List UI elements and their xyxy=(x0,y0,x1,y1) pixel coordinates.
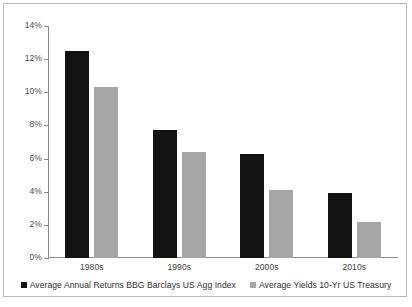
bar-1990s-series1[interactable] xyxy=(182,152,206,258)
y-axis-tick-label-wrap: 2% xyxy=(4,220,42,229)
legend-label: Average Annual Returns BBG Barclays US A… xyxy=(30,280,236,290)
y-axis-tick-label-wrap: 0% xyxy=(4,253,42,262)
chart-frame: 0%2%4%6%8%10%12%14% 1980s1990s2000s2010s… xyxy=(3,3,407,297)
y-axis-tick-label: 8% xyxy=(6,120,42,129)
y-axis-tick-label: 10% xyxy=(6,87,42,96)
bar-1980s-series1[interactable] xyxy=(94,87,118,258)
bar-group xyxy=(328,26,381,258)
plot-area xyxy=(48,26,398,258)
bar-group xyxy=(65,26,118,258)
y-axis-tick-label-wrap: 12% xyxy=(4,54,42,63)
legend-item-series1[interactable]: Average Yields 10-Yr US Treasury xyxy=(250,280,391,290)
bar-2000s-series1[interactable] xyxy=(269,190,293,258)
x-axis-label-1980s: 1980s xyxy=(48,262,136,272)
legend-item-series0[interactable]: Average Annual Returns BBG Barclays US A… xyxy=(21,280,236,290)
x-axis-label-1990s: 1990s xyxy=(136,262,224,272)
y-axis-tick-label: 6% xyxy=(6,154,42,163)
y-axis-tick-label-wrap: 14% xyxy=(4,21,42,30)
chart-legend: Average Annual Returns BBG Barclays US A… xyxy=(4,280,408,290)
bar-2000s-series0[interactable] xyxy=(240,154,264,258)
bar-2010s-series0[interactable] xyxy=(328,193,352,258)
y-axis-tick-label: 4% xyxy=(6,187,42,196)
y-axis-tick-label: 2% xyxy=(6,220,42,229)
bar-2010s-series1[interactable] xyxy=(357,222,381,258)
legend-swatch-icon xyxy=(250,282,256,288)
bar-1980s-series0[interactable] xyxy=(65,51,89,258)
y-axis-tick-label: 14% xyxy=(6,21,42,30)
bar-1990s-series0[interactable] xyxy=(153,130,177,258)
y-axis-tick-label-wrap: 10% xyxy=(4,87,42,96)
y-axis-tick-label: 12% xyxy=(6,54,42,63)
x-axis-label-2000s: 2000s xyxy=(223,262,311,272)
bar-group xyxy=(240,26,293,258)
y-axis-tick-label-wrap: 6% xyxy=(4,154,42,163)
legend-label: Average Yields 10-Yr US Treasury xyxy=(259,280,391,290)
x-axis-label-2010s: 2010s xyxy=(311,262,399,272)
bar-group xyxy=(153,26,206,258)
y-axis-tick-label: 0% xyxy=(6,253,42,262)
y-axis-tick xyxy=(44,258,49,259)
y-axis-tick-label-wrap: 4% xyxy=(4,187,42,196)
y-axis-tick-label-wrap: 8% xyxy=(4,120,42,129)
legend-swatch-icon xyxy=(21,282,27,288)
